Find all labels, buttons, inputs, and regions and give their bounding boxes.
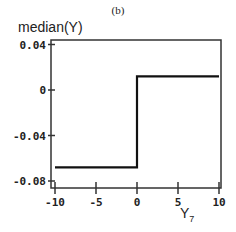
y-tick-label: -0.04: [13, 130, 46, 143]
x-axis-label: Y7: [180, 205, 194, 224]
y-tick-label: 0: [39, 84, 46, 97]
y-tick-label: -0.08: [13, 175, 46, 188]
x-tick-label: -5: [89, 196, 102, 209]
chart: (b) median(Y) 0.040-0.04-0.08 -10-50510 …: [0, 0, 236, 232]
y-axis-label: median(Y): [18, 19, 83, 35]
x-tick-label: -10: [45, 196, 65, 209]
step-line: [55, 76, 219, 167]
x-axis: -10-50510: [45, 182, 226, 209]
x-tick-label: 0: [134, 196, 141, 209]
y-tick-label: 0.04: [20, 39, 47, 52]
y-axis: 0.040-0.04-0.08: [13, 39, 55, 189]
panel-label: (b): [112, 4, 125, 17]
x-tick-label: 10: [212, 196, 225, 209]
